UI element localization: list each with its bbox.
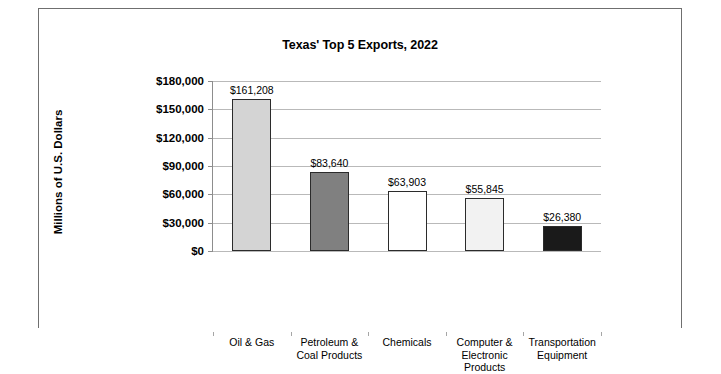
- y-axis-tick: [208, 251, 213, 252]
- gridline: [213, 251, 601, 252]
- bar: [232, 99, 271, 251]
- bar-value-label: $161,208: [230, 84, 274, 96]
- x-axis-category-label-line: Coal Products: [283, 349, 375, 362]
- category-separator-tick: [446, 332, 447, 336]
- y-axis-tick-label: $120,000: [156, 132, 204, 144]
- bar: [388, 191, 427, 251]
- y-axis-tick-label: $30,000: [162, 217, 204, 229]
- x-axis-category-label: TransportationEquipment: [516, 336, 608, 361]
- plot-area: $0$30,000$60,000$90,000$120,000$150,000$…: [213, 81, 601, 251]
- chart-title: Texas' Top 5 Exports, 2022: [38, 38, 682, 52]
- category-separator-tick: [368, 332, 369, 336]
- bar-value-label: $55,845: [466, 183, 504, 195]
- bar: [543, 226, 582, 251]
- x-axis-category-label-line: Transportation: [516, 336, 608, 349]
- y-axis-tick-label: $60,000: [162, 188, 204, 200]
- y-axis-tick: [208, 138, 213, 139]
- bar-value-label: $83,640: [310, 157, 348, 169]
- category-separator-tick: [523, 332, 524, 336]
- y-axis-tick: [208, 194, 213, 195]
- y-axis-tick-label: $90,000: [162, 160, 204, 172]
- x-axis-category-label-line: Equipment: [516, 349, 608, 362]
- category-separator-tick: [291, 332, 292, 336]
- category-separator-tick: [601, 332, 602, 336]
- y-axis-title: Millions of U.S. Dollars: [52, 77, 64, 267]
- y-axis-tick: [208, 223, 213, 224]
- y-axis-tick-label: $0: [191, 245, 204, 257]
- y-axis-tick: [208, 81, 213, 82]
- gridline: [213, 81, 601, 82]
- y-axis-tick-label: $150,000: [156, 103, 204, 115]
- category-separator-tick: [213, 332, 214, 336]
- y-axis-tick: [208, 166, 213, 167]
- bar: [465, 198, 504, 251]
- bar-value-label: $26,380: [543, 211, 581, 223]
- y-axis-tick: [208, 109, 213, 110]
- bar-value-label: $63,903: [388, 176, 426, 188]
- x-axis-category-label-line: Products: [439, 361, 531, 374]
- bar: [310, 172, 349, 251]
- y-axis-tick-label: $180,000: [156, 75, 204, 87]
